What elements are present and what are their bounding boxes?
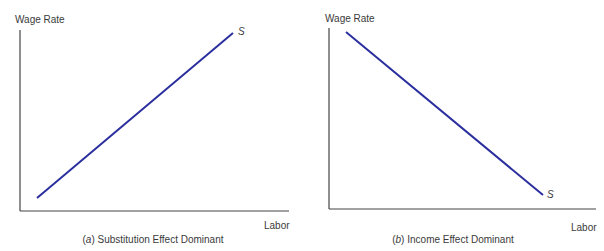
curve-label: S (547, 189, 554, 200)
chart-b-plot (300, 0, 604, 251)
chart-panel-b: Wage Rate S Labor (b) Income Effect Domi… (300, 0, 604, 251)
supply-curve (346, 32, 543, 195)
chart-a-plot (0, 0, 300, 251)
chart-panel-a: Wage Rate S Labor (a) Substitution Effec… (0, 0, 300, 251)
y-axis-label: Wage Rate (325, 13, 375, 24)
x-axis-label: Labor (264, 220, 290, 231)
caption: (b) Income Effect Dominant (392, 234, 514, 245)
curve-label: S (238, 26, 245, 37)
supply-curve (37, 33, 233, 198)
caption: (a) Substitution Effect Dominant (82, 234, 223, 245)
y-axis-label: Wage Rate (15, 14, 65, 25)
x-axis-label: Labor (571, 222, 597, 233)
